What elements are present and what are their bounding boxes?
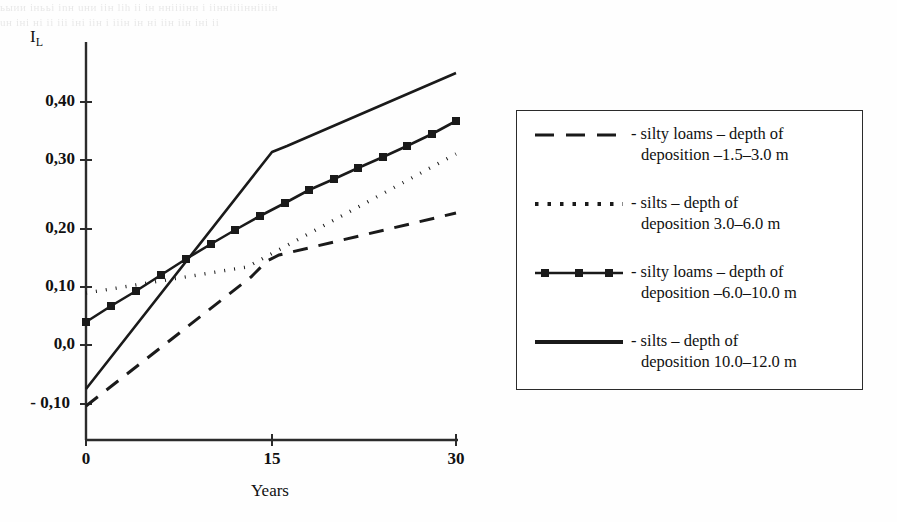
x-tick-label-15: 15 <box>247 449 297 469</box>
y-axis-title: IL <box>30 27 43 50</box>
legend-label-line1: - silts – depth of <box>639 330 797 351</box>
legend-label-silts-3_0-6_0: - silts – depth of deposition 3.0–6.0 m <box>633 192 780 234</box>
legend-label-line2: deposition –1.5–3.0 m <box>639 144 789 165</box>
x-tick-label-30: 30 <box>431 449 481 469</box>
legend-label-silty-loams-1_5-3_0: - silty loams – depth of deposition –1.5… <box>633 123 789 165</box>
y-tick-label-020: 0,20 <box>5 218 75 238</box>
y-tick-label-040: 0,40 <box>5 91 75 111</box>
series-silty-loams-1_5-3_0 <box>86 213 456 406</box>
legend-label-silts-10_0-12_0: - silts – depth of deposition 10.0–12.0 … <box>633 330 797 372</box>
y-tick-label-030: 0,30 <box>5 149 75 169</box>
dotted-line-swatch-icon <box>533 192 625 216</box>
series-silty-loams-6_0-10_0-markers <box>82 117 460 326</box>
legend: - silty loams – depth of deposition –1.5… <box>516 110 863 390</box>
solid-line-swatch-icon <box>533 330 625 354</box>
series-silts-3_0-6_0 <box>86 154 456 293</box>
legend-label-line2: deposition 3.0–6.0 m <box>639 213 780 234</box>
axes <box>86 42 458 440</box>
legend-label-line2: deposition 10.0–12.0 m <box>639 351 797 372</box>
dashed-line-swatch-icon <box>533 123 625 147</box>
y-tick-label-010: 0,10 <box>5 276 75 296</box>
legend-label-line1: - silty loams – depth of <box>639 123 789 144</box>
y-axis-title-subscript: L <box>36 35 43 49</box>
series-silts-10_0-12_0 <box>86 73 456 389</box>
legend-label-line1: - silts – depth of <box>639 192 780 213</box>
y-tick-label-neg010: - 0,10 <box>0 393 70 413</box>
x-axis-title: Years <box>190 481 350 501</box>
x-tick-label-0: 0 <box>61 449 111 469</box>
legend-label-line2: deposition –6.0–10.0 m <box>639 282 797 303</box>
plot-canvas <box>0 0 500 522</box>
legend-item-silts-3_0-6_0: - silts – depth of deposition 3.0–6.0 m <box>517 192 862 248</box>
series-silty-loams-6_0-10_0-line <box>86 121 456 322</box>
marker-line-swatch-icon <box>533 261 625 285</box>
legend-item-silty-loams-1_5-3_0: - silty loams – depth of deposition –1.5… <box>517 123 862 179</box>
legend-item-silty-loams-6_0-10_0: - silty loams – depth of deposition –6.0… <box>517 261 862 317</box>
legend-label-silty-loams-6_0-10_0: - silty loams – depth of deposition –6.0… <box>633 261 797 303</box>
y-tick-label-000: 0,0 <box>5 334 75 354</box>
legend-item-silts-10_0-12_0: - silts – depth of deposition 10.0–12.0 … <box>517 330 862 386</box>
line-chart: IL 0,40 0,30 0,20 0,10 0,0 - 0,10 0 15 3… <box>0 0 500 522</box>
legend-label-line1: - silty loams – depth of <box>639 261 797 282</box>
